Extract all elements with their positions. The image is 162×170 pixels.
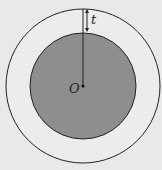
thickness-label: t: [91, 12, 97, 27]
diagram-canvas: t O: [0, 0, 162, 170]
center-point: [81, 84, 84, 87]
center-label: O: [69, 81, 80, 96]
